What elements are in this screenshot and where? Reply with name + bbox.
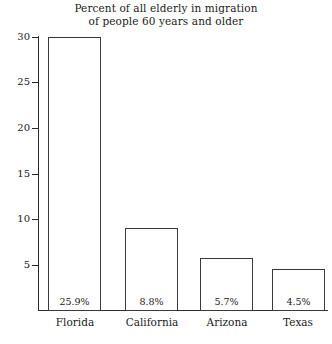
- y-tick-10: [32, 219, 39, 220]
- plot-area: 30 25 20 15 10 5 25.9% 8.8% 5.7% 4.5%: [0, 0, 332, 344]
- y-tick-label-30-wrap: 30: [0, 32, 30, 42]
- bar-chart: Percent of all elderly in migration of p…: [0, 0, 332, 344]
- y-tick-30: [32, 37, 39, 38]
- y-tick-25: [32, 82, 39, 83]
- y-tick-label-15-wrap: 15: [0, 169, 30, 179]
- bar-florida: [48, 37, 101, 311]
- y-tick-label-10-wrap: 10: [0, 214, 30, 224]
- y-tick-label-15: 15: [6, 169, 30, 179]
- y-tick-5: [32, 265, 39, 266]
- y-tick-label-30: 30: [6, 32, 30, 42]
- bar-value-texas: 4.5%: [272, 297, 325, 307]
- y-tick-15: [32, 174, 39, 175]
- bar-value-california: 8.8%: [125, 297, 178, 307]
- y-tick-label-25-wrap: 25: [0, 77, 30, 87]
- x-label-california: California: [116, 316, 188, 328]
- x-label-florida: Florida: [40, 316, 110, 328]
- y-tick-label-5: 5: [6, 260, 30, 270]
- y-tick-label-25: 25: [6, 77, 30, 87]
- y-tick-label-10: 10: [6, 214, 30, 224]
- y-tick-label-20-wrap: 20: [0, 123, 30, 133]
- y-tick-label-5-wrap: 5: [0, 260, 30, 270]
- x-label-texas: Texas: [265, 316, 331, 328]
- x-label-arizona: Arizona: [191, 316, 263, 328]
- y-tick-label-20: 20: [6, 123, 30, 133]
- bar-value-florida: 25.9%: [48, 297, 101, 307]
- y-tick-20: [32, 128, 39, 129]
- bar-value-arizona: 5.7%: [200, 297, 253, 307]
